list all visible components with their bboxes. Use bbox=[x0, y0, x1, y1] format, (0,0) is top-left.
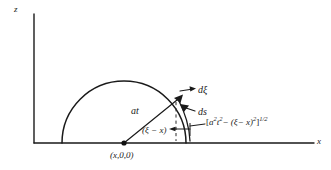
source-point-label: (x,0,0) bbox=[110, 151, 134, 160]
d-xi-arrow bbox=[180, 86, 196, 91]
x-axis-label: x bbox=[317, 137, 321, 146]
offset-arrow bbox=[169, 127, 190, 132]
z-axis-label: z bbox=[14, 5, 18, 14]
horizontal-offset-label: (ξ − x) bbox=[142, 126, 166, 135]
radius-expression-label: [a2t2− (ξ− x)2]1/2 bbox=[206, 118, 268, 127]
expr-minus-open-paren: − ( bbox=[223, 117, 234, 127]
figure-canvas: z x dξ ds at (ξ − x) (x,0,0) [a2t2− (ξ− … bbox=[0, 0, 331, 170]
source-point-dot bbox=[121, 140, 126, 145]
expr-outer-exponent: 1/2 bbox=[259, 115, 267, 122]
d-xi-label: dξ bbox=[198, 85, 207, 95]
expr-minus-2: − bbox=[238, 117, 246, 127]
diagram-svg bbox=[0, 0, 331, 170]
wavefront-semicircle bbox=[62, 81, 186, 143]
expression-leader-line bbox=[190, 124, 205, 126]
ds-arrow bbox=[180, 104, 195, 113]
ds-label: ds bbox=[198, 107, 207, 117]
radius-at-label: at bbox=[131, 106, 139, 116]
